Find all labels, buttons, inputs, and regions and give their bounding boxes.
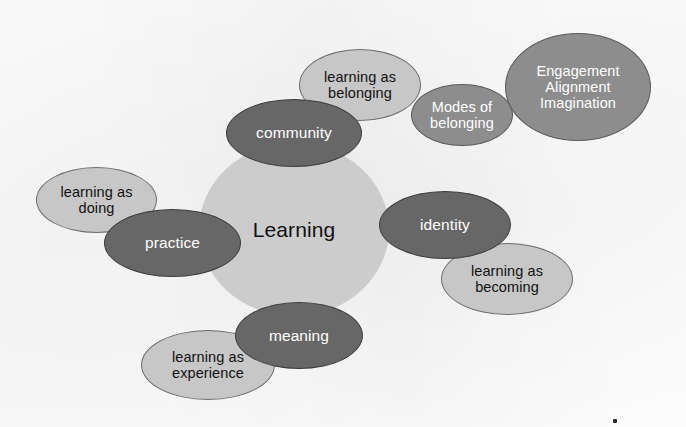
node-label-learning-as-experience: learning as experience <box>172 349 244 381</box>
scan-speck <box>613 419 617 423</box>
node-label-learning-as-becoming: learning as becoming <box>471 263 543 295</box>
core-learning-label: Learning <box>253 218 336 242</box>
node-identity: identity <box>379 191 511 259</box>
node-label-engagement-alignment-imagination: Engagement Alignment Imagination <box>536 63 619 112</box>
node-community: community <box>226 99 362 167</box>
node-label-practice: practice <box>145 234 200 251</box>
node-label-community: community <box>256 124 332 141</box>
node-label-modes-of-belonging: Modes of belonging <box>430 99 494 131</box>
node-label-meaning: meaning <box>269 327 329 344</box>
node-label-learning-as-doing: learning as doing <box>60 184 132 216</box>
node-label-identity: identity <box>420 216 470 233</box>
diagram-canvas: Learning learning as doingpracticecommun… <box>0 0 686 427</box>
node-modes-of-belonging: Modes of belonging <box>411 84 513 146</box>
node-engagement-alignment-imagination: Engagement Alignment Imagination <box>505 33 651 141</box>
node-label-learning-as-belonging: learning as belonging <box>324 69 396 101</box>
node-meaning: meaning <box>235 302 363 369</box>
node-practice: practice <box>104 209 241 277</box>
